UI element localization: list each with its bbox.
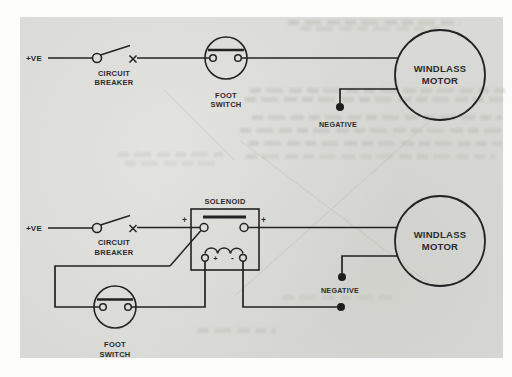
negative-label: NEGATIVE [321, 286, 359, 295]
foot-switch-label-line1: FOOT [215, 91, 237, 100]
circuit-breaker-label-line1: CIRCUIT [98, 69, 130, 78]
wire-branch-diagonal [170, 231, 201, 267]
circuit-breaker-contact-icon [93, 224, 102, 233]
negative-terminal-dot-motor [338, 273, 346, 281]
foot-switch-terminal-right [235, 55, 242, 62]
wire-coil-minus-to-negative [243, 261, 338, 307]
solenoid-plus-left-label: + [182, 215, 187, 225]
foot-switch-label-line1: FOOT [104, 340, 126, 349]
bottom-circuit: +VE CIRCUIT BREAKER SOLENOID + + + - WIN… [26, 196, 485, 359]
motor-label-line1: WINDLASS [414, 229, 467, 240]
motor-label-line2: MOTOR [422, 241, 458, 252]
coil-terminal-plus [202, 254, 209, 261]
negative-terminal-dot [336, 103, 344, 111]
top-circuit: +VE CIRCUIT BREAKER FOOT SWITCH WINDLASS… [26, 30, 485, 129]
wire-motor-negative [342, 256, 398, 273]
circuit-breaker-lever-icon [101, 216, 131, 226]
breaker-x-mark-icon [130, 56, 137, 63]
foot-switch-terminal-left [210, 55, 217, 62]
foot-switch-terminal-left [100, 304, 107, 311]
foot-switch-terminal-right [125, 304, 132, 311]
motor-label-line2: MOTOR [422, 75, 458, 86]
wire-motor-negative [340, 89, 397, 104]
circuit-breaker-contact-icon [93, 54, 102, 63]
foot-switch-label-line2: SWITCH [210, 100, 241, 109]
coil-terminal-minus [240, 254, 247, 261]
positive-terminal-label: +VE [26, 54, 43, 63]
solenoid-coil-icon [205, 248, 243, 254]
wiring-diagram: +VE CIRCUIT BREAKER FOOT SWITCH WINDLASS… [0, 0, 512, 377]
negative-label: NEGATIVE [319, 120, 357, 129]
positive-terminal-label: +VE [26, 224, 43, 233]
solenoid-terminal-left [200, 224, 208, 232]
solenoid-plus-right-label: + [261, 215, 266, 225]
circuit-breaker-label-line2: BREAKER [95, 248, 134, 257]
coil-minus-label: - [231, 253, 234, 263]
wire-footswitch-to-coil-plus [131, 261, 205, 307]
foot-switch-label-line2: SWITCH [99, 350, 130, 359]
circuit-breaker-lever-icon [101, 46, 131, 56]
breaker-x-mark-icon [130, 225, 137, 232]
circuit-breaker-label-line2: BREAKER [95, 78, 134, 87]
scanned-page: +VE CIRCUIT BREAKER FOOT SWITCH WINDLASS… [0, 0, 512, 377]
coil-plus-label: + [213, 254, 218, 263]
circuit-breaker-label-line1: CIRCUIT [98, 238, 130, 247]
negative-terminal-dot-coil [337, 303, 345, 311]
motor-label-line1: WINDLASS [414, 63, 467, 74]
solenoid-terminal-right [240, 224, 248, 232]
solenoid-label: SOLENOID [204, 197, 246, 206]
